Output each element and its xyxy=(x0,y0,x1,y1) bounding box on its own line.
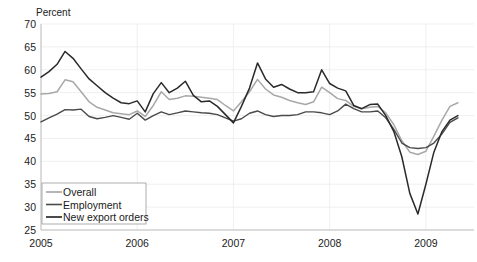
legend-label: Employment xyxy=(63,199,121,211)
y-tick-label: 55 xyxy=(24,87,36,99)
y-tick-label: 40 xyxy=(24,155,36,167)
x-tick-label: 2009 xyxy=(414,237,438,249)
x-axis-tick-labels: 20052006200720082009 xyxy=(29,237,437,249)
x-tick-label: 2007 xyxy=(222,237,246,249)
chart-container: 25303540455055606570 2005200620072008200… xyxy=(0,0,477,262)
y-tick-label: 35 xyxy=(24,178,36,190)
y-tick-label: 65 xyxy=(24,41,36,53)
y-tick-label: 30 xyxy=(24,201,36,213)
x-tick-label: 2005 xyxy=(29,237,53,249)
y-axis-tick-labels: 25303540455055606570 xyxy=(24,18,36,236)
legend-label: Overall xyxy=(63,186,96,198)
chart-legend: OverallEmploymentNew export orders xyxy=(42,183,149,224)
x-tick-label: 2008 xyxy=(318,237,342,249)
x-tick-label: 2006 xyxy=(126,237,150,249)
y-tick-label: 50 xyxy=(24,110,36,122)
legend-label: New export orders xyxy=(63,211,149,223)
y-tick-label: 25 xyxy=(24,224,36,236)
y-tick-label: 45 xyxy=(24,132,36,144)
y-tick-label: 70 xyxy=(24,18,36,30)
line-chart: 25303540455055606570 2005200620072008200… xyxy=(0,0,477,262)
y-tick-label: 60 xyxy=(24,64,36,76)
y-axis-label: Percent xyxy=(36,7,71,18)
